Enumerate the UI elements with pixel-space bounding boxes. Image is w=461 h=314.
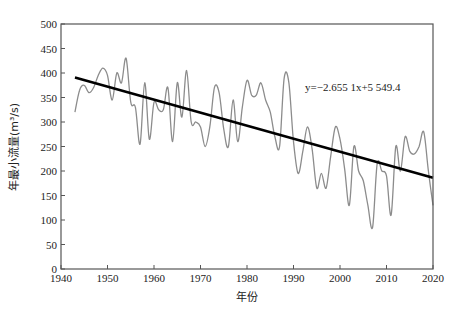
y-tick-label: 100 — [41, 214, 58, 226]
x-tick-label: 1950 — [97, 272, 120, 284]
y-tick-label: 50 — [46, 239, 58, 251]
x-tick-label: 1940 — [50, 272, 73, 284]
y-tick-label: 250 — [41, 141, 58, 153]
x-tick-label: 1960 — [143, 272, 166, 284]
y-tick-label: 400 — [41, 67, 58, 79]
x-tick-label: 1980 — [236, 272, 259, 284]
y-tick-label: 350 — [41, 92, 58, 104]
x-tick-label: 2000 — [329, 272, 352, 284]
axes: 0501001502002503003504004505001940195019… — [41, 18, 445, 284]
x-tick-label: 2020 — [422, 272, 445, 284]
y-tick-label: 500 — [41, 18, 58, 30]
x-axis-title: 年份 — [236, 290, 258, 304]
x-tick-label: 1990 — [283, 272, 306, 284]
line-chart: 0501001502002503003504004505001940195019… — [0, 0, 461, 314]
regression-equation: y=−2.655 1x+5 549.4 — [305, 81, 401, 93]
y-tick-label: 450 — [41, 43, 58, 55]
y-tick-label: 300 — [41, 116, 58, 128]
x-tick-label: 1970 — [190, 272, 213, 284]
y-tick-label: 150 — [41, 190, 58, 202]
plot-frame — [61, 24, 433, 269]
x-tick-label: 2010 — [376, 272, 399, 284]
y-tick-label: 200 — [41, 165, 58, 177]
y-axis-title: 年最小流量(m³/s) — [7, 103, 21, 191]
